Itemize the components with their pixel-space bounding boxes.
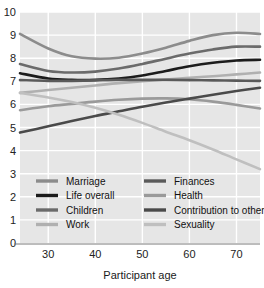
legend-label: Marriage [66,176,106,187]
y-tick-label: 10 [4,6,16,18]
x-tick-label: 60 [183,248,195,260]
y-tick-label: 4 [10,145,16,157]
chart-container: 012345678910 3040506070 Participant age … [0,0,264,288]
x-tick-label: 40 [89,248,101,260]
legend-label: Work [66,219,90,230]
legend-label: Children [66,205,103,216]
legend-label: Finances [174,176,215,187]
x-tick-label: 50 [136,248,148,260]
y-tick-label: 5 [10,122,16,134]
y-tick-label: 6 [10,98,16,110]
legend-label: Health [174,190,203,201]
y-tick-label: 7 [10,75,16,87]
x-axis-ticks: 3040506070 [42,248,242,260]
y-tick-label: 8 [10,52,16,64]
line-chart: 012345678910 3040506070 Participant age … [0,0,264,288]
curve-finances [20,80,260,81]
x-tick-label: 30 [42,248,54,260]
y-tick-label: 0 [10,237,16,249]
legend-label: Sexuality [174,219,215,230]
legend-label: Life overall [66,190,114,201]
x-axis-label: Participant age [103,269,176,281]
y-axis-ticks: 012345678910 [4,6,16,249]
y-tick-label: 9 [10,29,16,41]
y-tick-label: 1 [10,214,16,226]
y-tick-label: 3 [10,168,16,180]
y-tick-label: 2 [10,191,16,203]
legend-label: Contribution to others [174,205,264,216]
x-tick-label: 70 [230,248,242,260]
